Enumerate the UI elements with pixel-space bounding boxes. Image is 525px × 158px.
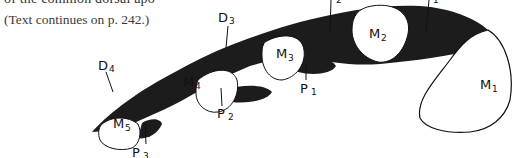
svg-text:M: M [113, 116, 124, 131]
svg-text:P: P [217, 106, 225, 121]
svg-text:1: 1 [433, 0, 439, 5]
label-p3: P3 [132, 145, 149, 158]
svg-text:M: M [369, 26, 380, 41]
svg-text:D: D [218, 10, 228, 25]
svg-text:P: P [300, 81, 308, 96]
label-d1: 1 [433, 0, 439, 5]
svg-text:D: D [98, 58, 108, 73]
svg-text:2: 2 [228, 112, 234, 122]
svg-text:5: 5 [125, 123, 131, 133]
svg-text:2: 2 [381, 33, 387, 43]
svg-text:4: 4 [109, 64, 115, 74]
svg-text:3: 3 [143, 151, 149, 158]
svg-text:3: 3 [288, 53, 294, 63]
label-d3: D3 [218, 10, 235, 26]
svg-text:1: 1 [311, 87, 317, 97]
metacarpal-cross-section-figure: D3 2 1 D4 M1 M2 M3 M4 M5 P1 P2 P3 [0, 0, 525, 158]
svg-text:2: 2 [336, 0, 342, 5]
label-d4: D4 [98, 58, 115, 74]
svg-text:1: 1 [492, 84, 498, 94]
svg-text:3: 3 [229, 16, 235, 26]
svg-text:P: P [132, 145, 140, 158]
svg-text:M: M [183, 74, 194, 89]
label-d2: 2 [336, 0, 342, 5]
palmar-interosseous-p3 [138, 119, 162, 138]
svg-text:M: M [480, 77, 491, 92]
svg-text:4: 4 [195, 81, 201, 91]
svg-text:M: M [276, 46, 287, 61]
label-p1: P1 [300, 81, 317, 97]
